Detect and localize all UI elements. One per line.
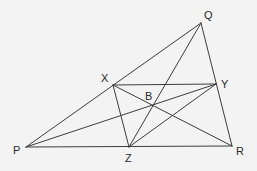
segment-py	[26, 84, 216, 147]
intersection-label-b: B	[145, 91, 152, 102]
triangle-diagram: P Q R X Y Z B	[0, 0, 257, 171]
midpoint-label-z: Z	[125, 153, 132, 164]
diagram-lines	[0, 0, 257, 171]
midpoint-label-x: X	[101, 73, 108, 84]
midpoint-label-y: Y	[221, 79, 228, 90]
vertex-label-r: R	[236, 146, 244, 157]
vertex-label-p: P	[13, 145, 20, 156]
vertex-label-q: Q	[204, 10, 213, 21]
segment-xr	[113, 85, 232, 146]
segment-xy	[113, 84, 216, 85]
